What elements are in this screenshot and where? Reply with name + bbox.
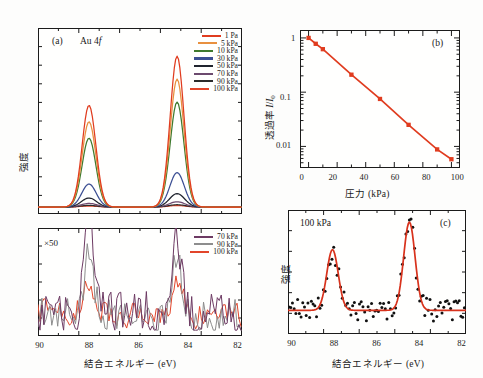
legend-swatch-icon [194,57,213,59]
panel-b-x-tick: 80 [422,172,431,182]
panel-a-x-tick: 88 [85,340,94,350]
panel-b-ylabel-i: I [265,104,275,107]
panel-a-sample-label: Au 4f [80,36,101,46]
panel-a-xlabel: 結合エネルギー (eV) [84,356,176,370]
legend-swatch-icon [202,35,221,37]
legend-label: 100 kPa [213,85,238,93]
legend-label: 100 kPa [213,248,238,256]
legend-swatch-icon [194,73,213,75]
legend-swatch-icon [194,50,213,52]
panel-b-ylabel-prefix: 透過率 [265,108,275,140]
panel-a-ylabel: 強度 [16,152,30,172]
panel-b-tag: (b) [432,38,443,48]
panel-a-x-tick: 90 [35,340,44,350]
panel-b-ylabel: 透過率 I/I0 [262,95,277,140]
legend-swatch-icon [194,236,213,238]
panel-b-xlabel: 圧力 (kPa) [345,186,390,200]
panel-b-x-tick: 20 [328,172,337,182]
panel-c-x-tick: 88 [330,338,339,348]
legend-a-lower-item: 100 kPa [168,248,238,256]
scale-factor-label: ×50 [44,238,58,248]
panel-a-x-tick: 82 [233,340,242,350]
legend-swatch-icon [194,80,213,82]
panel-b-ylabel-slash: / [265,102,275,105]
panel-c-x-tick: 86 [372,338,381,348]
panel-c-tag: (c) [440,218,451,228]
panel-b-y-tick: 0.01 [276,140,291,150]
panel-b-ylabel-i2: I [265,99,275,102]
panel-b-x-tick: 100 [451,172,464,182]
panel-b-ylabel-sub: 0 [269,95,277,99]
legend-a-item: 100 kPa [168,85,238,93]
legend-swatch-icon [194,243,213,245]
panel-a-x-tick: 86 [134,340,143,350]
panel-c-ylabel: 強度 [278,264,292,284]
panel-c-x-tick: 90 [287,338,296,348]
panel-b-y-tick: 0.1 [280,92,291,102]
legend-swatch-icon [194,65,213,67]
panel-c-plot [288,210,466,334]
legend-swatch-icon [190,88,209,90]
panel-b-y-tick: 1 [291,33,295,43]
panel-c-annotation: 100 kPa [300,218,331,228]
panel-b-x-tick: 0 [300,172,304,182]
panel-c-xlabel: 結合エネルギー (eV) [332,356,424,370]
legend-swatch-icon [198,42,217,44]
panel-b-x-tick: 60 [391,172,400,182]
panel-c-x-tick: 84 [415,338,424,348]
sample-label-orbital: f [99,36,102,46]
legend-swatch-icon [190,251,209,253]
figure-root: (a) Au 4f 1 Pa5 kPa10 kPa30 kPa50 kPa70 … [0,0,483,378]
panel-a-x-tick: 84 [184,340,193,350]
panel-b-x-tick: 40 [360,172,369,182]
panel-a-lower-legend: 70 kPa90 kPa100 kPa [168,233,238,256]
panel-a-tag: (a) [52,36,63,46]
panel-a-legend: 1 Pa5 kPa10 kPa30 kPa50 kPa70 kPa90 kPa1… [168,32,238,93]
panel-c-x-tick: 82 [457,338,466,348]
panel-b-plot [300,30,460,168]
sample-label-text: Au 4 [80,36,99,46]
